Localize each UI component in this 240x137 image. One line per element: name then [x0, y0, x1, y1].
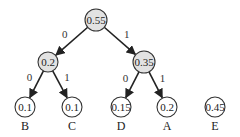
- edge-label: 0: [27, 71, 33, 83]
- leaf-symbol-label: D: [117, 119, 126, 133]
- edge-label: 1: [64, 71, 70, 83]
- leaf-node-C: 0.1C: [62, 97, 82, 133]
- edge-label: 0: [123, 72, 129, 84]
- tree-canvas: 010101 0.550.20.350.1B0.1C0.15D0.2A0.45E: [0, 0, 240, 137]
- edge-label: 0: [62, 28, 68, 40]
- leaf-symbol-label: B: [21, 119, 29, 133]
- node-value: 0.55: [86, 14, 106, 26]
- internal-node: 0.2: [38, 52, 58, 72]
- leaf-node-A: 0.2A: [157, 97, 177, 133]
- leaf-symbol-label: E: [211, 119, 218, 133]
- huffman-tree-diagram: 010101 0.550.20.350.1B0.1C0.15D0.2A0.45E: [0, 0, 240, 137]
- node-value: 0.2: [160, 101, 174, 113]
- internal-node: 0.35: [133, 51, 155, 73]
- node-value: 0.35: [134, 56, 154, 68]
- edge-arrow: [104, 27, 135, 54]
- edge-arrow: [56, 27, 88, 55]
- node-value: 0.15: [111, 101, 131, 113]
- node-value: 0.1: [65, 101, 79, 113]
- leaf-node-B: 0.1B: [15, 97, 35, 133]
- nodes-layer: 0.550.20.350.1B0.1C0.15D0.2A0.45E: [15, 9, 225, 133]
- node-value: 0.2: [41, 56, 55, 68]
- leaf-symbol-label: C: [68, 119, 76, 133]
- leaf-node-D: 0.15D: [111, 97, 131, 133]
- node-value: 0.45: [205, 101, 225, 113]
- leaf-symbol-label: A: [163, 119, 172, 133]
- edge-label: 1: [160, 72, 166, 84]
- internal-node: 0.55: [85, 9, 107, 31]
- edge-label: 1: [124, 28, 130, 40]
- leaf-node-E: 0.45E: [205, 97, 225, 133]
- node-value: 0.1: [18, 101, 32, 113]
